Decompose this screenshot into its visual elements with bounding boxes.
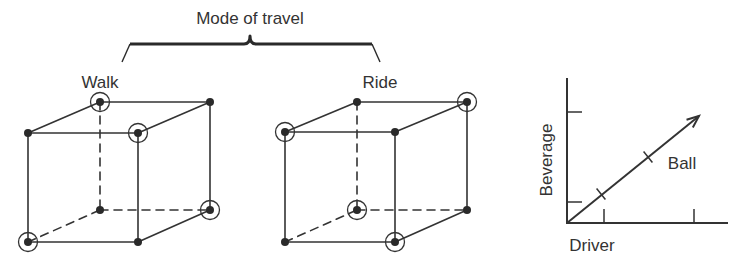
walk-cube-vertices <box>19 93 220 252</box>
cube-vertex-dot <box>96 98 104 106</box>
grouping-brace <box>130 36 372 44</box>
cube-hidden-edge <box>285 210 357 242</box>
x-axis-label: Driver <box>569 236 615 255</box>
ride-cube: Ride <box>276 73 477 252</box>
ride-cube-edges <box>285 102 467 242</box>
y-axis-label: Beverage <box>537 124 556 197</box>
mode-of-travel-header: Mode of travel <box>122 9 380 62</box>
cube-vertex-dot <box>134 238 142 246</box>
cube-vertex-dot <box>134 129 142 137</box>
cube-edge <box>138 102 210 133</box>
mode-of-travel-figure: Mode of travel Walk Ride Driver Beverage <box>0 0 747 266</box>
cube-edge <box>395 102 467 132</box>
walk-cube-edges <box>28 102 210 242</box>
cube-vertex-dot <box>391 128 399 136</box>
brace-left-leg <box>122 44 130 62</box>
brace-right-leg <box>372 44 380 62</box>
cube-edge <box>285 102 357 132</box>
cube-vertex-dot <box>281 128 289 136</box>
cube-vertex-dot <box>206 206 214 214</box>
cube-vertex-dot <box>206 98 214 106</box>
cube-vertex-dot <box>463 206 471 214</box>
cube-edge <box>138 210 210 242</box>
graph-axes <box>567 78 728 223</box>
cube-vertex-dot <box>391 238 399 246</box>
cube-vertex-dot <box>353 206 361 214</box>
walk-label: Walk <box>81 73 119 92</box>
cube-vertex-dot <box>281 238 289 246</box>
cube-vertex-dot <box>463 98 471 106</box>
cube-vertex-dot <box>353 98 361 106</box>
cube-hidden-edge <box>28 210 100 242</box>
cube-vertex-dot <box>24 129 32 137</box>
walk-cube: Walk <box>19 73 220 252</box>
diagram-canvas: Mode of travel Walk Ride Driver Beverage <box>0 0 747 266</box>
figure-title: Mode of travel <box>196 9 304 28</box>
ride-cube-vertices <box>276 93 477 252</box>
driver-beverage-graph: Driver Beverage Ball <box>537 78 728 255</box>
ride-label: Ride <box>363 73 398 92</box>
cube-edge <box>28 102 100 133</box>
cube-vertex-dot <box>24 238 32 246</box>
cube-vertex-dot <box>96 206 104 214</box>
cube-edge <box>395 210 467 242</box>
ball-label: Ball <box>668 154 696 173</box>
